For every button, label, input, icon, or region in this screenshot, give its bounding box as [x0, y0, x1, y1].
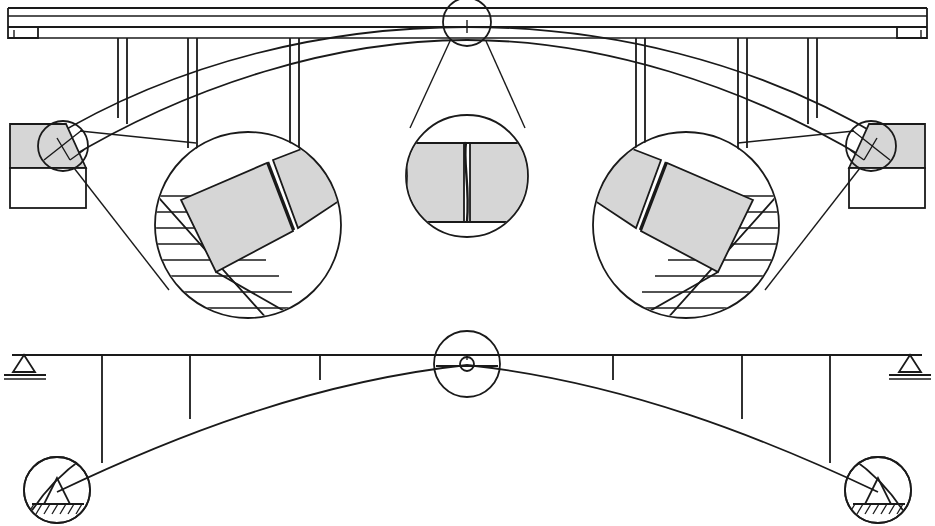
elevation-panel — [8, 0, 927, 322]
left-base-hinge-callout — [24, 430, 140, 523]
drawing-canvas — [0, 0, 935, 526]
deck-support-right — [889, 355, 931, 379]
detail-right-springing-hinge — [574, 130, 784, 322]
column-6 — [808, 38, 817, 124]
right-base-hinge-callout — [795, 430, 911, 523]
detail-crown-hinge — [405, 114, 529, 238]
shaded-block-right — [470, 143, 528, 222]
arch-axis — [57, 365, 878, 492]
column-1 — [118, 38, 127, 124]
deck-support-left — [4, 355, 46, 379]
line-diagram-panel — [4, 331, 931, 523]
crown-hinge-callout — [434, 331, 500, 397]
detail-left-springing-hinge — [150, 130, 360, 322]
bridge-drawing-svg — [0, 0, 935, 526]
